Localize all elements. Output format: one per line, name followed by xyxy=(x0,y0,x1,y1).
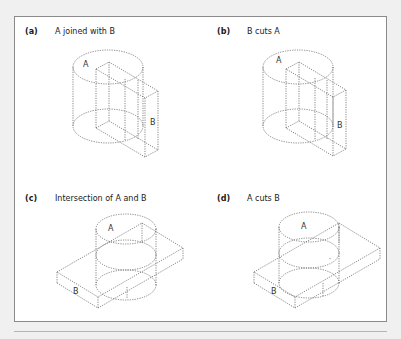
panel-d-label-b: B xyxy=(271,287,277,296)
panel-b-drawing: A B xyxy=(263,50,346,156)
panel-b-label-b: B xyxy=(337,121,343,130)
panel-c-label-a: A xyxy=(108,224,114,233)
panel-b-label-a: A xyxy=(276,56,282,65)
panel-a-drawing: A B xyxy=(73,50,158,157)
panel-a-label-b: B xyxy=(150,118,156,127)
panel-a-label-a: A xyxy=(83,60,89,69)
panel-c-label-b: B xyxy=(73,287,79,296)
panel-c-drawing: B A xyxy=(57,214,183,308)
diagram-canvas: A B A B B A xyxy=(0,0,401,339)
panel-d-drawing: B A xyxy=(254,212,380,308)
panel-d-label-a: A xyxy=(301,222,307,231)
